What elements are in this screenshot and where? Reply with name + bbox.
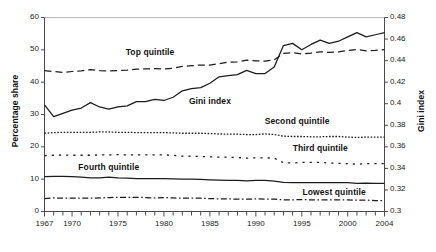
series-label-third-quintile: Third quintile	[293, 143, 348, 153]
series-line-top-quintile	[45, 50, 385, 73]
series-label-lowest-quintile: Lowest quintile	[302, 187, 365, 197]
chart-figure: Percentage share Gini index 010203040506…	[0, 0, 436, 252]
series-line-second-quintile	[45, 132, 385, 138]
series-line-fourth-quintile	[45, 176, 385, 183]
series-line-lowest-quintile	[45, 197, 385, 200]
series-label-top-quintile: Top quintile	[126, 47, 175, 57]
plot-area	[0, 0, 436, 252]
series-label-second-quintile: Second quintile	[265, 116, 330, 126]
data-series-lines	[45, 33, 385, 201]
series-label-gini-index: Gini index	[189, 96, 231, 106]
series-label-fourth-quintile: Fourth quintile	[78, 162, 139, 172]
